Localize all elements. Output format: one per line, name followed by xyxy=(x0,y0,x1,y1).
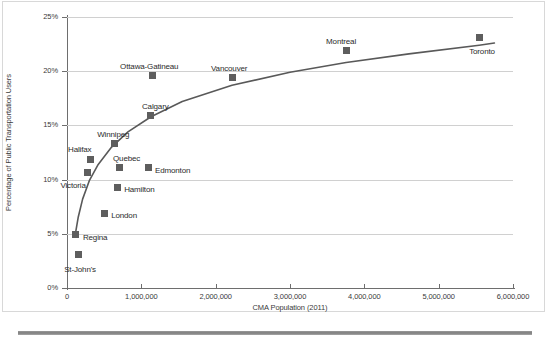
data-point-marker[interactable] xyxy=(75,251,82,258)
data-point-marker[interactable] xyxy=(476,34,483,41)
data-point-label: Toronto xyxy=(469,47,495,56)
x-tick-label: 4,000,000 xyxy=(329,292,399,301)
data-point-label: Calgary xyxy=(142,102,169,111)
footer-divider xyxy=(18,331,532,335)
trendline xyxy=(67,17,513,288)
x-tick-label: 6,000,000 xyxy=(478,292,548,301)
data-point-marker[interactable] xyxy=(87,156,94,163)
data-point-label: Regina xyxy=(83,233,107,242)
data-point-marker[interactable] xyxy=(149,72,156,79)
chart-figure: Percentage of Public Transportation User… xyxy=(0,0,550,348)
data-point-label: Victoria xyxy=(60,181,85,190)
y-tick-label: 5% xyxy=(24,229,58,238)
data-point-marker[interactable] xyxy=(114,184,121,191)
data-point-label: London xyxy=(111,211,137,220)
data-point-label: Winnipeg xyxy=(97,130,129,139)
data-point-marker[interactable] xyxy=(229,74,236,81)
data-point-marker[interactable] xyxy=(147,112,154,119)
y-tick-label: 20% xyxy=(24,66,58,75)
plot-area: St-John'sReginaLondonVictoriaHamiltonHal… xyxy=(67,17,513,288)
data-point-label: St-John's xyxy=(64,265,96,274)
data-point-marker[interactable] xyxy=(343,47,350,54)
y-axis-title: Percentage of Public Transportation User… xyxy=(4,0,13,293)
x-axis-title: CMA Population (2011) xyxy=(67,303,513,312)
data-point-marker[interactable] xyxy=(116,164,123,171)
x-tick-label: 2,000,000 xyxy=(181,292,251,301)
y-tick-label: 10% xyxy=(24,175,58,184)
data-point-marker[interactable] xyxy=(101,210,108,217)
x-tick-label: 0 xyxy=(32,292,102,301)
y-tick-label: 0% xyxy=(24,283,58,292)
data-point-label: Edmonton xyxy=(155,166,190,175)
data-point-label: Ottawa-Gatineau xyxy=(120,62,178,71)
data-point-label: Montreal xyxy=(326,37,356,46)
data-point-label: Hamilton xyxy=(124,185,154,194)
y-tick-label: 15% xyxy=(24,120,58,129)
data-point-label: Quebec xyxy=(113,154,140,163)
x-tick-mark xyxy=(513,284,514,289)
data-point-label: Halifax xyxy=(68,145,91,154)
x-tick-label: 1,000,000 xyxy=(106,292,176,301)
x-tick-label: 5,000,000 xyxy=(404,292,474,301)
data-point-label: Vancouver xyxy=(211,64,247,73)
x-tick-label: 3,000,000 xyxy=(255,292,325,301)
y-tick-label: 25% xyxy=(24,12,58,21)
data-point-marker[interactable] xyxy=(84,169,91,176)
data-point-marker[interactable] xyxy=(111,140,118,147)
data-point-marker[interactable] xyxy=(145,164,152,171)
data-point-marker[interactable] xyxy=(72,231,79,238)
